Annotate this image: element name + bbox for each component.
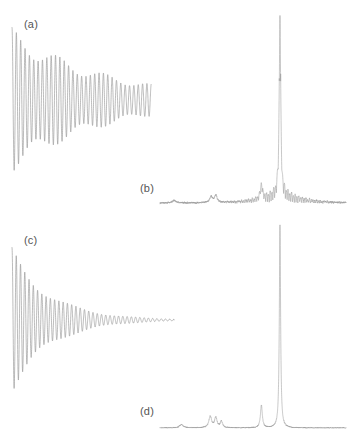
spectrum-trace-d <box>0 0 351 440</box>
nmr-figure: (a) (b) (c) (d) <box>0 0 351 440</box>
